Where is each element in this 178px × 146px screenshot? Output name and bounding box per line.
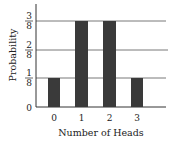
svg-text:8: 8 [26,21,32,31]
x-tick-labels: 0 1 2 3 [51,113,140,123]
svg-text:8: 8 [26,50,32,60]
svg-text:1: 1 [26,68,32,78]
svg-text:8: 8 [26,78,32,88]
y-tick-labels: 3 8 2 8 1 8 0 [25,11,33,113]
svg-text:2: 2 [107,113,113,123]
svg-text:0: 0 [51,113,57,123]
bar-2 [103,21,116,107]
bar-0 [48,78,60,107]
bar-1 [75,21,88,107]
svg-text:2: 2 [26,40,32,50]
y-axis-label: Probability [7,28,18,81]
svg-text:3: 3 [134,113,140,123]
probability-bar-chart: 3 8 2 8 1 8 0 0 1 2 3 Number of Heads Pr… [0,0,178,146]
svg-text:1: 1 [79,113,85,123]
svg-text:3: 3 [26,11,32,21]
svg-text:0: 0 [26,103,32,113]
x-axis-label: Number of Heads [58,127,144,138]
bar-3 [131,78,143,107]
bars [48,21,143,107]
gridlines [36,21,168,78]
